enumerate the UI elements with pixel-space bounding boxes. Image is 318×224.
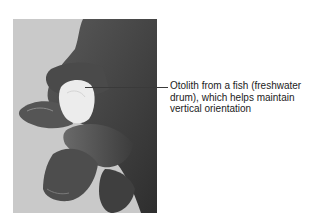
callout-label: Otolith from a fish (freshwater drum), w… [170, 80, 316, 115]
hand-illustration [13, 19, 157, 213]
otolith-photo [13, 19, 157, 213]
callout-leader-line [85, 87, 168, 88]
